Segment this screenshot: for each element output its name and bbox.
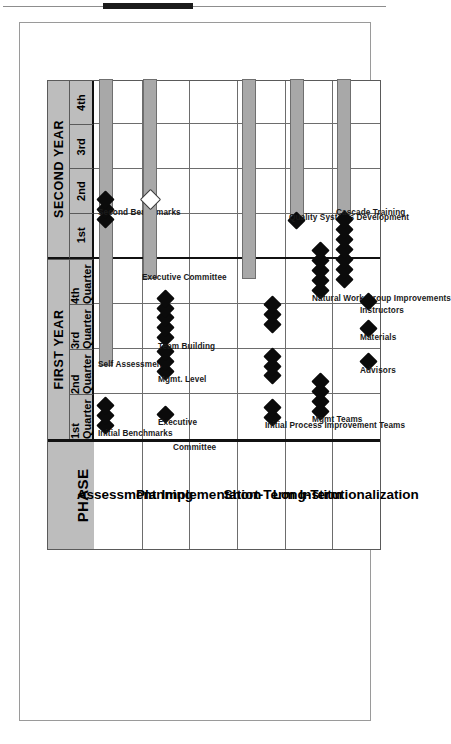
- gantt-plot-area: Initial BenchmarksSelf AssessmentSecond …: [94, 81, 380, 439]
- gantt-task-label: Mgmt Teams: [312, 415, 362, 424]
- gantt-chart: FIRST YEAR SECOND YEAR PHASE 1st Quarter…: [47, 80, 381, 550]
- quarter-header-row: PHASE 1st Quarter 2nd Quarter 3rd Quarte…: [70, 81, 94, 549]
- quarter-header-y1q1: 1st Quarter: [70, 394, 94, 439]
- gantt-bar: [99, 219, 113, 366]
- quarter-header-y1q4: 4th Quarter: [70, 259, 94, 304]
- quarter-header-y1q2: 2nd Quarter: [70, 349, 94, 394]
- row-separator: [332, 81, 333, 439]
- gantt-task-label: Advisors: [360, 366, 396, 375]
- quarter-header-y2q2: 2nd: [70, 169, 94, 213]
- quarter-header-y2q4: 4th: [70, 81, 94, 124]
- row-separator: [237, 81, 238, 439]
- gantt-task-label: Committee: [173, 443, 216, 452]
- gantt-bar: [337, 79, 351, 214]
- page-frame: FIRST YEAR SECOND YEAR PHASE 1st Quarter…: [19, 22, 371, 721]
- gantt-task-label: Team Building: [158, 342, 215, 351]
- row-separator: [285, 81, 286, 439]
- quarter-gridline: [94, 348, 380, 349]
- quarter-gridline: [94, 393, 380, 394]
- gantt-chart-rotation-host: FIRST YEAR SECOND YEAR PHASE 1st Quarter…: [47, 80, 381, 550]
- quarter-gridline: [94, 303, 380, 304]
- quarter-header-y2q3: 3rd: [70, 124, 94, 168]
- gantt-task-label: Materials: [360, 333, 396, 342]
- quarter-header-y2q1: 1st: [70, 213, 94, 259]
- page-header-rule-mark: [103, 3, 193, 9]
- quarter-header-y1q3: 3rd Quarter: [70, 304, 94, 349]
- gantt-task-label: Natural Work Group Improvements: [312, 295, 451, 304]
- gantt-task-label: Executive Committee: [142, 273, 227, 282]
- gantt-task-label: Mgmt. Level: [158, 376, 206, 385]
- gantt-task-label: Instructors: [360, 306, 404, 315]
- phase-label-column: AssessmentPlanningImplementationShort-Te…: [94, 439, 380, 549]
- phase-row-label: Institutionalization: [300, 487, 410, 502]
- year-header-first: FIRST YEAR: [48, 259, 70, 439]
- year-header-second: SECOND YEAR: [48, 81, 70, 259]
- gantt-bar: [143, 79, 157, 279]
- year-header-row: FIRST YEAR SECOND YEAR: [48, 81, 70, 549]
- gantt-body: AssessmentPlanningImplementationShort-Te…: [94, 81, 380, 549]
- gantt-bar: [242, 79, 256, 279]
- gantt-task-label: Second Benchmarks: [98, 208, 181, 217]
- gantt-task-label: Self Assessment: [98, 360, 165, 369]
- gantt-task-label: Executive: [158, 418, 197, 427]
- gantt-task-label: Cascade Training: [336, 208, 405, 217]
- page-header-rule: [3, 6, 386, 7]
- row-separator: [189, 81, 190, 439]
- gantt-task-label: Initial Benchmarks: [98, 430, 173, 439]
- gantt-bar: [290, 79, 304, 219]
